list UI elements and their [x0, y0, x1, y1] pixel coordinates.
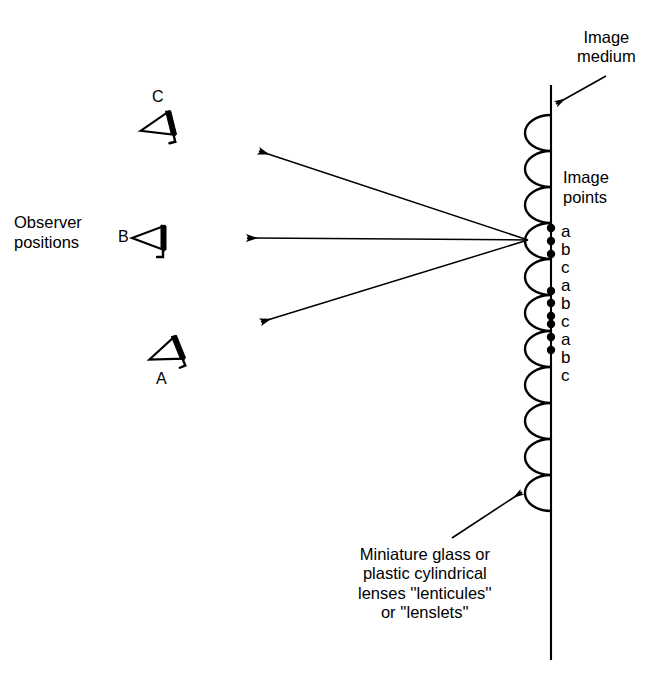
observer-label-A: A [156, 370, 167, 389]
image-point-dot-c-2 [547, 250, 555, 258]
observer-label-C: C [152, 88, 164, 107]
image-point-dot-c-8 [547, 346, 555, 354]
image-point-dots [547, 224, 555, 354]
image-point-letter-8: c [561, 366, 570, 386]
lenticule-array [525, 115, 551, 511]
image-point-dot-a-6 [547, 320, 555, 328]
ray-to-observer-A [261, 240, 528, 322]
image-point-dot-b-7 [547, 333, 555, 341]
image-point-dot-c-5 [547, 312, 555, 320]
annotation-arrows [452, 76, 606, 538]
lenticule-arrow [452, 492, 522, 538]
ray-to-observer-C [259, 151, 528, 240]
image-point-dot-a-3 [547, 287, 555, 295]
observer-positions-label: Observer positions [14, 213, 82, 253]
ray-to-observer-B [247, 238, 528, 240]
observer-icons [132, 110, 188, 377]
image-point-dot-b-1 [547, 237, 555, 245]
lenticular-diagram: Image medium Image points Observer posit… [0, 0, 669, 682]
ray-bundle [247, 151, 528, 322]
image-point-dot-a-0 [547, 224, 555, 232]
image-medium-arrow [556, 76, 606, 104]
lenticule-caption-label: Miniature glass or plastic cylindrical l… [358, 545, 492, 623]
observer-icon-B [132, 225, 166, 257]
image-points-label: Image points [563, 168, 609, 208]
observer-icon-C [137, 110, 178, 149]
image-point-dot-b-4 [547, 299, 555, 307]
image-medium-label: Image medium [577, 28, 636, 67]
observer-label-B: B [118, 228, 129, 247]
